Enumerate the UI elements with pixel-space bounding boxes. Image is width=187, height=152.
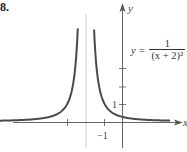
- y-axis-label: y: [127, 2, 133, 14]
- curve-left-branch: [0, 28, 78, 121]
- equation-fraction: 1 (x + 2)²: [149, 38, 185, 62]
- equation-numerator: 1: [163, 38, 172, 49]
- equation-denominator: (x + 2)²: [149, 50, 185, 62]
- x-axis-label: x: [182, 116, 187, 128]
- y-tick-label-1: 1: [112, 99, 117, 110]
- function-graph: y x 1 −1: [0, 0, 187, 152]
- x-tick-label-neg1: −1: [97, 130, 108, 141]
- equation-lhs: y =: [131, 45, 145, 56]
- function-equation: y = 1 (x + 2)²: [131, 38, 185, 62]
